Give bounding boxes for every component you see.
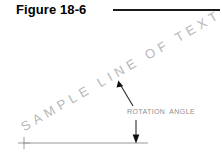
figure-root: Figure 18-6 SAMPLE LINE OF TEXT <box>0 0 222 159</box>
leader-arrow-icon <box>117 81 133 107</box>
vertical-arrow-icon <box>133 120 140 144</box>
origin-cross-icon <box>18 137 30 149</box>
rotation-angle-label: ROTATION ANGLE <box>127 108 195 115</box>
